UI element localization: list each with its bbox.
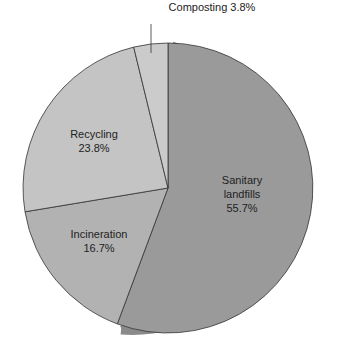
label-recycling-name: Recycling <box>70 128 118 140</box>
label-incineration-name: Incineration <box>71 228 128 240</box>
label-incineration-value: 16.7% <box>83 242 114 254</box>
pie-chart: Composting 3.8% Recycling 23.8% Incinera… <box>0 0 338 362</box>
label-recycling-value: 23.8% <box>78 142 109 154</box>
label-landfill-line2: landfills <box>224 188 261 200</box>
label-landfill-line1: Sanitary <box>222 174 263 186</box>
label-landfill-value: 55.7% <box>226 202 257 214</box>
label-composting: Composting 3.8% <box>169 1 256 13</box>
